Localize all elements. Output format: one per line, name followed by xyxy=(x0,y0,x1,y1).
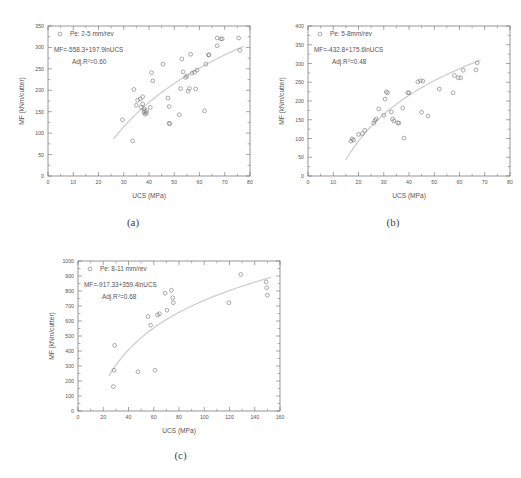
y-tick-label: 200 xyxy=(65,378,74,384)
data-point xyxy=(264,280,268,284)
scatter-plot-b: 0102030405060708005010015020025030035040… xyxy=(268,8,518,213)
chart-panel-b: 0102030405060708005010015020025030035040… xyxy=(268,8,518,236)
x-tick-label: 60 xyxy=(151,414,157,420)
data-point xyxy=(227,301,231,305)
data-point xyxy=(265,293,269,297)
r-squared-label: Adj.R2=0.68 xyxy=(102,293,137,301)
legend-marker-icon xyxy=(88,267,92,271)
regression-equation-label: MF=-917.33+359.4lnUCS xyxy=(84,281,157,288)
data-point xyxy=(136,370,140,374)
x-tick-label: 60 xyxy=(457,179,463,185)
panel-caption-c: (c) xyxy=(38,449,323,461)
y-tick-label: 50 xyxy=(298,154,304,160)
data-point xyxy=(421,79,425,83)
y-tick-label: 1000 xyxy=(62,258,74,264)
data-point xyxy=(453,74,457,78)
x-tick-label: 20 xyxy=(96,179,102,185)
data-point xyxy=(131,139,135,143)
y-tick-label: 250 xyxy=(35,66,44,72)
x-axis-title: UCS (MPa) xyxy=(162,427,196,435)
x-tick-label: 80 xyxy=(247,179,253,185)
data-point xyxy=(181,70,185,74)
scatter-plot-a: 01020304050607080050100150200250300350UC… xyxy=(8,8,258,213)
x-tick-label: 40 xyxy=(126,414,132,420)
data-point xyxy=(161,62,165,66)
x-tick-label: 0 xyxy=(307,179,310,185)
x-tick-label: 160 xyxy=(276,414,285,420)
x-tick-label: 60 xyxy=(197,179,203,185)
data-point xyxy=(402,136,406,140)
x-tick-label: 10 xyxy=(70,179,76,185)
r-squared-value: =0.48 xyxy=(350,58,367,65)
data-point xyxy=(177,113,181,117)
data-point xyxy=(189,52,193,56)
regression-equation-label: MF=-432.8+175.6lnUCS xyxy=(314,46,383,53)
y-tick-label: 150 xyxy=(295,117,304,123)
y-tick-label: 100 xyxy=(65,393,74,399)
data-point xyxy=(113,343,117,347)
y-tick-label: 100 xyxy=(295,136,304,142)
data-point xyxy=(167,105,171,109)
data-point xyxy=(146,315,150,319)
y-tick-label: 800 xyxy=(65,288,74,294)
y-tick-label: 0 xyxy=(41,173,44,179)
data-point xyxy=(451,91,455,95)
data-point xyxy=(170,288,174,292)
y-tick-label: 300 xyxy=(65,363,74,369)
data-point xyxy=(132,88,136,92)
data-point xyxy=(171,296,175,300)
data-point xyxy=(215,36,219,40)
data-point xyxy=(171,301,175,305)
data-point xyxy=(151,79,155,83)
data-point xyxy=(474,68,478,72)
x-axis-title: UCS (MPa) xyxy=(132,192,166,200)
x-tick-label: 0 xyxy=(77,414,80,420)
data-point xyxy=(383,97,387,101)
y-axis-title: MF (kNm/cutter) xyxy=(18,77,26,125)
data-point xyxy=(134,103,138,107)
data-point xyxy=(426,114,430,118)
data-point xyxy=(148,106,152,110)
y-tick-label: 300 xyxy=(35,44,44,50)
r-squared-prefix: Adj.R xyxy=(332,58,348,66)
x-tick-label: 30 xyxy=(121,179,127,185)
data-point xyxy=(153,368,157,372)
data-point xyxy=(166,96,170,100)
data-point xyxy=(437,87,441,91)
y-tick-label: 100 xyxy=(35,130,44,136)
x-axis-title: UCS (MPa) xyxy=(392,192,426,200)
x-tick-label: 80 xyxy=(507,179,513,185)
y-tick-label: 50 xyxy=(38,152,44,158)
y-tick-label: 0 xyxy=(301,173,304,179)
y-tick-label: 400 xyxy=(295,23,304,29)
x-tick-label: 70 xyxy=(482,179,488,185)
regression-equation-label: MF=-558.3+197.9lnUCS xyxy=(54,46,123,53)
y-tick-label: 350 xyxy=(35,23,44,29)
panel-caption-a: (a) xyxy=(8,216,258,228)
data-point xyxy=(357,132,361,136)
legend-label: Pe: 8-11 mm/rev xyxy=(100,265,148,272)
y-tick-label: 0 xyxy=(71,408,74,414)
data-point xyxy=(149,323,153,327)
data-point xyxy=(420,110,424,114)
y-axis-title: MF (kNm/cutter) xyxy=(278,77,286,125)
data-point xyxy=(203,109,207,113)
x-tick-label: 70 xyxy=(222,179,228,185)
data-point xyxy=(389,110,393,114)
data-point xyxy=(401,106,405,110)
r-squared-prefix: Adj.R xyxy=(72,58,88,66)
chart-panel-c: 0204060801001201401600100200300400500600… xyxy=(38,243,323,473)
data-point xyxy=(163,291,167,295)
x-tick-label: 50 xyxy=(431,179,437,185)
data-point xyxy=(363,128,367,132)
x-tick-label: 120 xyxy=(225,414,234,420)
data-point xyxy=(141,95,145,99)
data-point xyxy=(121,118,125,122)
data-point xyxy=(165,308,169,312)
x-tick-label: 40 xyxy=(146,179,152,185)
data-point xyxy=(141,102,145,106)
data-point xyxy=(150,71,154,75)
y-tick-label: 200 xyxy=(295,98,304,104)
data-point xyxy=(194,87,198,91)
panel-caption-b: (b) xyxy=(268,216,518,228)
